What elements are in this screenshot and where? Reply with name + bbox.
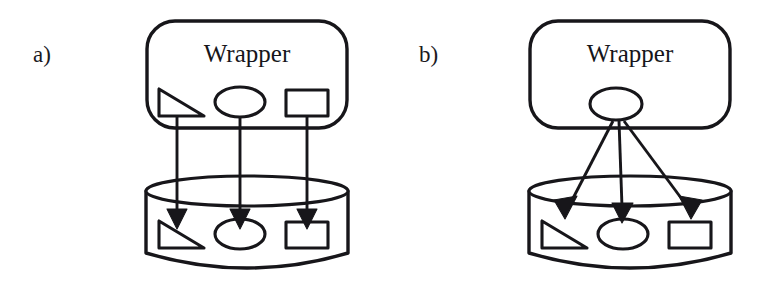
panel-b-wrapper: Wrapper xyxy=(530,21,730,128)
panel-a-wrapper: Wrapper xyxy=(147,21,347,128)
arrow-triangle xyxy=(167,116,187,229)
wrapper-ellipse-icon xyxy=(215,87,265,117)
wrapper-rectangle-icon xyxy=(286,90,328,116)
panel-b: b) Wrapper xyxy=(419,21,731,268)
wrapper-title: Wrapper xyxy=(587,40,674,67)
panel-b-label: b) xyxy=(419,42,438,67)
panel-a-label: a) xyxy=(33,42,51,67)
panel-a: a) Wrapper xyxy=(33,21,348,268)
database-rectangle-icon xyxy=(669,222,711,248)
arrow-to-ellipse xyxy=(612,121,633,223)
wrapper-ellipse-icon xyxy=(590,88,642,120)
wrapper-database-diagram: a) Wrapper xyxy=(0,0,769,287)
arrow-ellipse xyxy=(230,117,250,229)
panel-b-database xyxy=(529,176,731,268)
wrapper-title: Wrapper xyxy=(204,40,291,67)
arrow-rectangle xyxy=(297,116,317,229)
database-ellipse-icon xyxy=(598,219,648,249)
figure-container: a) Wrapper xyxy=(0,0,769,287)
